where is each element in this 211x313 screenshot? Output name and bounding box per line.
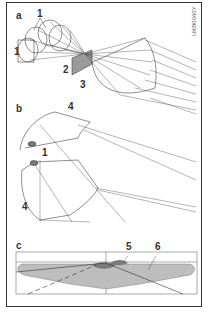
panel-a: [18, 20, 196, 114]
bulb-lower: [30, 161, 38, 166]
callout-3: 3: [80, 79, 86, 90]
callout-1-leaders: [34, 18, 46, 30]
lower-reflector: [22, 160, 98, 220]
callout-1-top: 1: [37, 8, 43, 19]
panel-b-label: b: [16, 103, 22, 114]
callout-2: 2: [63, 64, 69, 75]
callout-5: 5: [126, 241, 132, 252]
panel-c-label: c: [16, 240, 22, 251]
beam-lines: [35, 125, 196, 222]
panel-a-label: a: [16, 10, 22, 21]
panel-b: [20, 112, 196, 222]
lamp-units: [18, 20, 71, 62]
callout-4-bottom: 4: [22, 201, 28, 212]
callout-1-left: 1: [14, 46, 20, 57]
figure-code: UKB0660Y: [191, 6, 197, 36]
reflector: [92, 38, 156, 93]
callout-6: 6: [155, 241, 161, 252]
panel-c: [16, 252, 197, 294]
rays-converging: [30, 22, 85, 60]
bulb-upper: [28, 142, 36, 147]
rays-diverging: [85, 38, 196, 114]
callout-4-top: 4: [68, 101, 74, 112]
headlamp-optics-diagram: a 1 1 2 3 UKB0660Y b 4 1 4: [0, 0, 211, 313]
callout-1-b: 1: [42, 147, 48, 158]
